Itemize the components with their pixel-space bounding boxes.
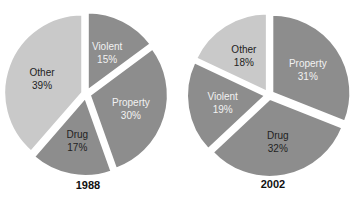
slice-label-violent: Violent xyxy=(92,41,123,52)
slice-value-drug: 17% xyxy=(67,142,87,153)
slice-label-drug: Drug xyxy=(267,130,289,141)
pie-chart-1988: Violent15%Property30%Drug17%Other39% xyxy=(4,12,168,176)
slice-label-other: Other xyxy=(30,67,56,78)
slice-label-other: Other xyxy=(231,44,257,55)
year-label-2002: 2002 xyxy=(261,178,285,190)
slice-value-drug: 32% xyxy=(268,143,288,154)
slice-label-drug: Drug xyxy=(66,129,88,140)
slice-value-property: 31% xyxy=(298,71,318,82)
slice-value-violent: 19% xyxy=(213,104,233,115)
pie-chart-2002: Property31%Drug32%Violent19%Other18% xyxy=(187,14,350,177)
slice-value-other: 39% xyxy=(32,80,52,91)
slice-label-property: Property xyxy=(289,58,327,69)
slice-value-property: 30% xyxy=(121,110,141,121)
slice-label-property: Property xyxy=(112,97,150,108)
slice-value-violent: 15% xyxy=(97,54,117,65)
slice-label-violent: Violent xyxy=(207,91,238,102)
year-label-1988: 1988 xyxy=(76,179,100,191)
slice-value-other: 18% xyxy=(234,57,254,68)
pie-charts: Violent15%Property30%Drug17%Other39% Pro… xyxy=(0,0,361,197)
